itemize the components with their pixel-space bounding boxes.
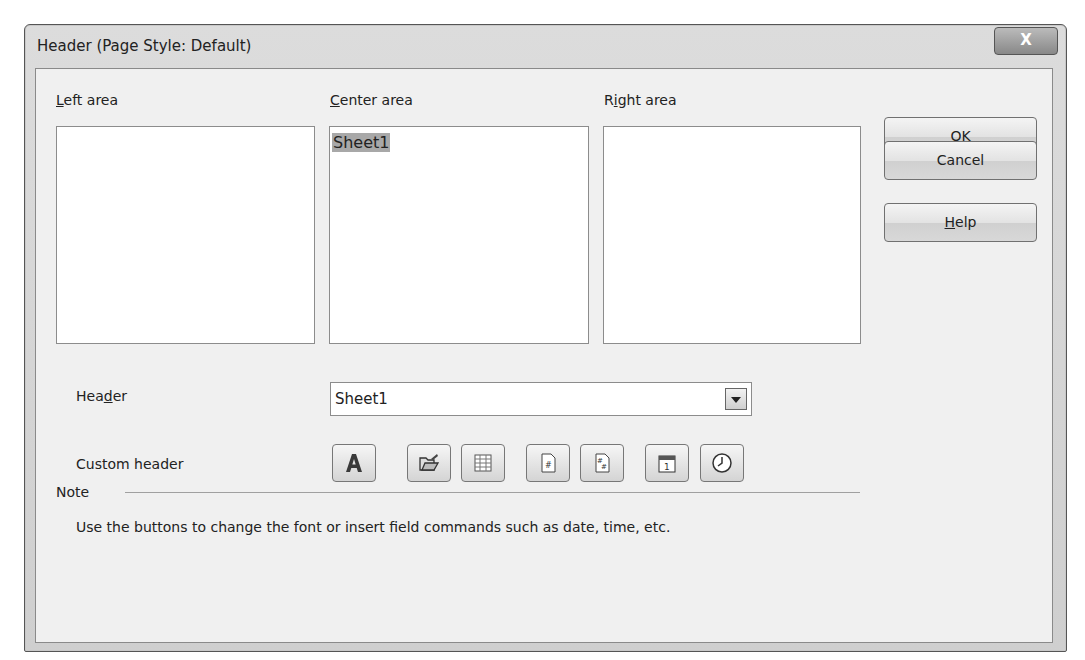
center-area-text: Sheet1	[332, 133, 390, 152]
center-area-editor[interactable]: Sheet1	[329, 126, 589, 344]
font-A-icon	[342, 451, 366, 475]
page-count-icon: ##	[590, 451, 614, 475]
center-area-label: Center area	[330, 92, 413, 108]
left-area-editor[interactable]	[56, 126, 315, 344]
note-title: Note	[56, 484, 89, 500]
calendar-icon: 1	[655, 451, 679, 475]
svg-text:#: #	[545, 461, 552, 470]
time-button[interactable]	[700, 444, 744, 482]
date-button[interactable]: 1	[645, 444, 689, 482]
svg-text:1: 1	[664, 462, 670, 472]
folder-icon	[417, 451, 441, 475]
svg-text:#: #	[601, 463, 607, 471]
custom-header-label: Custom header	[76, 456, 183, 472]
note-text: Use the buttons to change the font or in…	[76, 519, 670, 535]
close-icon: X	[1020, 31, 1032, 49]
header-select[interactable]: Sheet1	[330, 382, 752, 416]
cancel-button[interactable]: Cancel	[884, 141, 1037, 180]
page-number-icon: #	[536, 451, 560, 475]
chevron-down-icon[interactable]	[725, 388, 747, 410]
note-divider	[125, 492, 860, 493]
close-button[interactable]: X	[994, 27, 1058, 55]
title-button[interactable]	[407, 444, 451, 482]
pages-button[interactable]: ##	[580, 444, 624, 482]
left-area-label: Left area	[56, 92, 118, 108]
header-label: Header	[76, 388, 127, 404]
text-attributes-button[interactable]	[332, 444, 376, 482]
clock-icon	[710, 451, 734, 475]
help-button[interactable]: Help	[884, 203, 1037, 242]
title-bar[interactable]: Header (Page Style: Default) X	[25, 25, 1066, 69]
table-icon	[471, 451, 495, 475]
right-area-editor[interactable]	[603, 126, 861, 344]
header-select-value: Sheet1	[335, 390, 388, 408]
page-button[interactable]: #	[526, 444, 570, 482]
right-area-label: Right area	[604, 92, 677, 108]
dialog-title: Header (Page Style: Default)	[37, 37, 251, 55]
sheet-name-button[interactable]	[461, 444, 505, 482]
